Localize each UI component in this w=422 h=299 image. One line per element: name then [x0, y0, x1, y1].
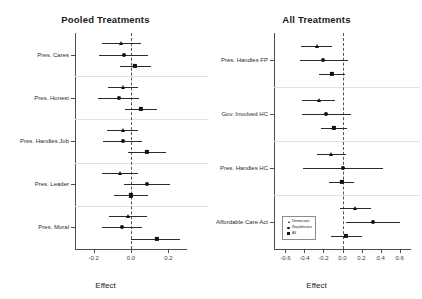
x-axis-tick [362, 250, 363, 253]
point-estimate-marker [120, 225, 124, 229]
point-estimate-marker [133, 64, 137, 68]
point-estimate-marker [145, 150, 149, 154]
y-axis-tick [270, 114, 274, 115]
x-axis-tick [400, 250, 401, 253]
legend-item: Democrats [285, 220, 312, 225]
x-axis-tick-label: -0.4 [299, 255, 309, 261]
y-axis-tick [71, 227, 75, 228]
category-label: Affordable Care Act [216, 219, 268, 225]
point-estimate-marker [117, 96, 121, 100]
x-axis-title-left: Effect [0, 281, 211, 290]
figure-forest-plots: Pooled Treatments -0.20.00.2Pres. CaresP… [0, 0, 422, 299]
point-estimate-marker [155, 237, 159, 241]
y-axis-tick [71, 141, 75, 142]
point-estimate-marker [126, 214, 130, 218]
point-estimate-marker [371, 220, 375, 224]
category-label: Pres. Handles HC [220, 165, 268, 171]
legend-marker-icon [285, 227, 292, 230]
legend-label: Republicans [292, 226, 312, 230]
category-label: Pres. Honest [34, 95, 69, 101]
x-axis-tick [343, 250, 344, 253]
zero-reference-line [343, 33, 344, 249]
legend-label: All [292, 232, 296, 236]
x-axis-tick [94, 250, 95, 253]
x-axis-tick-label: 0.6 [395, 255, 403, 261]
point-estimate-marker [353, 206, 357, 210]
point-estimate-marker [122, 53, 126, 57]
y-axis-tick [270, 60, 274, 61]
y-axis-tick [270, 222, 274, 223]
x-axis-tick [304, 250, 305, 253]
group-separator [75, 119, 209, 120]
x-axis-tick-label: 0.0 [127, 255, 135, 261]
x-axis-tick [323, 250, 324, 253]
y-axis-tick [71, 55, 75, 56]
group-separator [274, 141, 420, 142]
category-label: Pres. Moral [38, 224, 69, 230]
point-estimate-marker [330, 72, 334, 76]
panel-pooled-treatments: Pooled Treatments -0.20.00.2Pres. CaresP… [0, 0, 211, 299]
category-label: Pres. Handles FP [221, 57, 268, 63]
point-estimate-marker [119, 41, 123, 45]
legend-item: All [285, 231, 312, 236]
group-separator [274, 195, 420, 196]
plot-area-left: -0.20.00.2Pres. CaresPres. HonestPres. H… [0, 0, 211, 299]
x-axis-tick-label: 0.4 [376, 255, 384, 261]
point-estimate-marker [332, 126, 336, 130]
x-axis-tick [168, 250, 169, 253]
x-axis-tick-label: 0.2 [357, 255, 365, 261]
point-estimate-marker [121, 139, 125, 143]
plot-area-right: -0.6-0.4-0.20.00.20.40.6Pres. Handles FP… [211, 0, 422, 299]
group-separator [75, 206, 209, 207]
x-axis-tick-label: -0.6 [280, 255, 290, 261]
point-estimate-marker [317, 98, 321, 102]
point-estimate-marker [129, 193, 133, 197]
point-estimate-marker [321, 58, 325, 62]
legend-marker-icon [285, 232, 292, 235]
category-label: Pres. Leader [35, 181, 69, 187]
point-estimate-marker [118, 171, 122, 175]
category-label: Gov. Involved HC [221, 111, 268, 117]
point-estimate-marker [339, 180, 343, 184]
y-axis-tick [71, 98, 75, 99]
legend-item: Republicans [285, 225, 312, 230]
legend: DemocratsRepublicansAll [282, 216, 316, 240]
x-axis-tick [131, 250, 132, 253]
x-axis-tick [285, 250, 286, 253]
x-axis-tick-label: -0.2 [318, 255, 328, 261]
point-estimate-marker [145, 182, 149, 186]
point-estimate-marker [139, 107, 143, 111]
point-estimate-marker [344, 234, 348, 238]
category-label: Pres. Handles Job [20, 138, 69, 144]
legend-label: Democrats [292, 220, 309, 224]
x-axis-tick-label: 0.2 [164, 255, 172, 261]
legend-marker-icon [285, 221, 292, 223]
point-estimate-marker [329, 152, 333, 156]
group-separator [75, 76, 209, 77]
group-separator [75, 163, 209, 164]
y-axis-tick [71, 184, 75, 185]
point-estimate-marker [121, 85, 125, 89]
y-axis-line [75, 33, 76, 249]
point-estimate-marker [341, 166, 345, 170]
x-axis-title-right: Effect [211, 281, 422, 290]
category-label: Pres. Cares [37, 52, 69, 58]
y-axis-tick [270, 168, 274, 169]
x-axis-tick-label: 0.0 [338, 255, 346, 261]
x-axis-tick [381, 250, 382, 253]
point-estimate-marker [324, 112, 328, 116]
x-axis-tick-label: -0.2 [88, 255, 98, 261]
group-separator [274, 87, 420, 88]
panel-all-treatments: All Treatments -0.6-0.4-0.20.00.20.40.6P… [211, 0, 422, 299]
point-estimate-marker [121, 128, 125, 132]
point-estimate-marker [315, 44, 319, 48]
